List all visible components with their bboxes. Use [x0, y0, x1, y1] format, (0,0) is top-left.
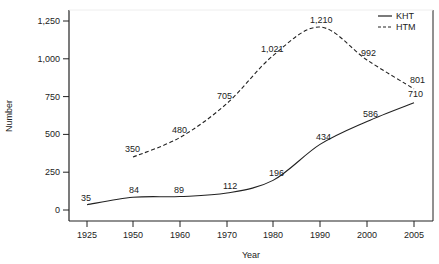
x-tick-label: 2000 [357, 230, 377, 240]
data-label: 801 [410, 75, 425, 85]
data-label: 434 [316, 132, 331, 142]
data-label: 35 [81, 193, 91, 203]
x-axis-ticks: 19251950196019701980199020002005 [77, 221, 424, 240]
data-label: 705 [217, 91, 232, 101]
data-label: 586 [363, 109, 378, 119]
x-axis-title: Year [242, 250, 260, 260]
x-tick-label: 1970 [217, 230, 237, 240]
x-tick-label: 1950 [123, 230, 143, 240]
x-tick-label: 1990 [310, 230, 330, 240]
legend: KHT HTM [378, 11, 416, 32]
data-label: 112 [223, 181, 237, 191]
data-label: 992 [361, 48, 376, 58]
x-tick-label: 1960 [170, 230, 190, 240]
data-label: 710 [408, 89, 423, 99]
y-axis-title: Number [4, 100, 14, 132]
data-labels-layer: 3584891121964345867103504807051,0211,210… [81, 15, 425, 203]
y-axis-ticks: 02505007501,0001,250 [37, 16, 69, 215]
x-tick-label: 1925 [77, 230, 97, 240]
y-tick-label: 0 [55, 205, 60, 215]
y-tick-label: 500 [45, 129, 60, 139]
data-label: 89 [174, 185, 184, 195]
x-tick-label: 2005 [404, 230, 424, 240]
y-tick-label: 1,000 [37, 54, 60, 64]
y-tick-label: 250 [45, 167, 60, 177]
y-tick-label: 750 [45, 92, 60, 102]
x-tick-label: 1980 [263, 230, 283, 240]
chart-canvas: 02505007501,0001,250 1925195019601970198… [0, 0, 439, 264]
data-label: 350 [125, 144, 140, 154]
data-label: 1,021 [261, 44, 284, 54]
line-chart: 02505007501,0001,250 1925195019601970198… [0, 0, 439, 264]
data-label: 1,210 [310, 15, 333, 25]
data-label: 196 [269, 168, 284, 178]
legend-label-kht: KHT [396, 11, 415, 21]
data-label: 480 [172, 125, 187, 135]
legend-label-htm: HTM [396, 22, 416, 32]
data-label: 84 [129, 185, 139, 195]
y-tick-label: 1,250 [37, 16, 60, 26]
